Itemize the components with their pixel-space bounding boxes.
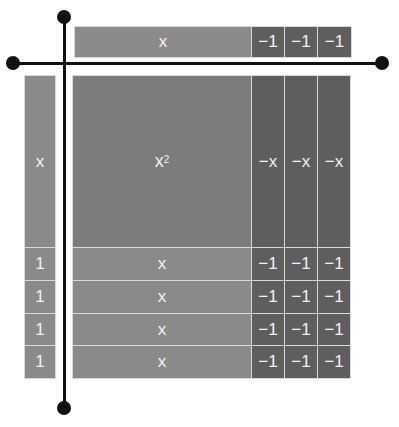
tile-label: −1: [291, 320, 310, 340]
tile-label: −x: [325, 152, 343, 172]
neg-one-tile: −1: [317, 313, 351, 346]
horizontal-axis: [12, 62, 382, 65]
tile-label: −x: [259, 152, 277, 172]
x-squared-tile: x2: [72, 75, 252, 248]
tile-label: −1: [325, 32, 344, 52]
tile-label: x: [155, 151, 164, 172]
tile-label: −1: [291, 352, 310, 372]
tile-label: 1: [35, 287, 44, 307]
tile-label: −1: [324, 287, 343, 307]
tile-label: x: [159, 32, 168, 52]
vertical-axis-top-dot: [57, 10, 71, 24]
tile-label: x: [36, 152, 45, 172]
tile-label: x: [158, 254, 167, 274]
x-tile: x: [72, 345, 252, 379]
tile-label: −1: [291, 254, 310, 274]
neg-x-tile: −x: [317, 75, 351, 248]
tile-label: −1: [258, 320, 277, 340]
tile-label: −1: [324, 352, 343, 372]
top-factor-neg-one-tile: −1: [284, 26, 318, 58]
left-factor-x-tile: x: [24, 75, 56, 248]
exponent: 2: [164, 154, 170, 165]
tile-label: −1: [258, 32, 277, 52]
tile-label: −1: [324, 254, 343, 274]
neg-one-tile: −1: [284, 313, 318, 346]
tile-label: −1: [324, 320, 343, 340]
neg-one-tile: −1: [251, 280, 285, 314]
tile-label: −x: [292, 152, 310, 172]
left-factor-one-tile: 1: [24, 313, 56, 346]
vertical-axis: [63, 17, 66, 407]
tile-label: 1: [35, 320, 44, 340]
x-tile: x: [72, 247, 252, 281]
tile-label: −1: [258, 352, 277, 372]
tile-label: x: [158, 352, 167, 372]
vertical-axis-bottom-dot: [57, 401, 71, 415]
tile-label: x: [158, 287, 167, 307]
neg-one-tile: −1: [317, 247, 351, 281]
neg-one-tile: −1: [284, 345, 318, 379]
left-factor-one-tile: 1: [24, 247, 56, 281]
left-factor-one-tile: 1: [24, 280, 56, 314]
x-tile: x: [72, 313, 252, 346]
x-tile: x: [72, 280, 252, 314]
neg-one-tile: −1: [317, 280, 351, 314]
neg-one-tile: −1: [251, 345, 285, 379]
tile-label: −1: [291, 287, 310, 307]
neg-one-tile: −1: [317, 345, 351, 379]
tile-label: x: [158, 320, 167, 340]
neg-one-tile: −1: [284, 280, 318, 314]
neg-one-tile: −1: [251, 247, 285, 281]
neg-x-tile: −x: [284, 75, 318, 248]
horizontal-axis-left-dot: [6, 56, 20, 70]
horizontal-axis-right-dot: [375, 56, 389, 70]
tile-label: −1: [258, 287, 277, 307]
tile-label: −1: [258, 254, 277, 274]
tile-label: 1: [35, 254, 44, 274]
tile-label: 1: [35, 352, 44, 372]
top-factor-neg-one-tile: −1: [251, 26, 285, 58]
top-factor-x-tile: x: [74, 26, 252, 58]
neg-one-tile: −1: [251, 313, 285, 346]
neg-one-tile: −1: [284, 247, 318, 281]
tile-label: −1: [291, 32, 310, 52]
left-factor-one-tile: 1: [24, 345, 56, 379]
top-factor-neg-one-tile: −1: [317, 26, 352, 58]
neg-x-tile: −x: [251, 75, 285, 248]
